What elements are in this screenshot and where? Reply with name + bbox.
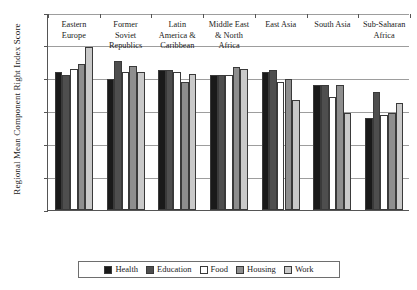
bar-food-eastern-europe [70, 69, 78, 210]
bar-work-east-asia [292, 100, 300, 210]
bar-health-south-asia [313, 85, 321, 210]
x-axis-category-label: FormerSovietRepublics [100, 20, 152, 52]
legend-label: Work [295, 265, 314, 274]
bar-work-eastern-europe [85, 47, 93, 210]
bar-work-south-asia [344, 113, 352, 210]
bar-housing-sub-saharan-africa [388, 113, 396, 210]
x-axis-category-label-line: America & [151, 31, 203, 42]
x-axis-category-label: Sub-SaharanAfrica [358, 20, 410, 41]
bar-education-middle-east-north-africa [218, 75, 226, 210]
bar-housing-former-soviet-republics [129, 66, 137, 210]
y-axis-tick-mark [44, 79, 48, 80]
x-axis-category-label: East Asia [255, 20, 307, 31]
bar-housing-south-asia [336, 85, 344, 210]
legend-item-education[interactable]: Education [146, 265, 191, 274]
x-axis-category-label-line: Middle East [203, 20, 255, 31]
x-axis-category-label: LatinAmerica &Caribbean [151, 20, 203, 52]
bar-housing-east-asia [285, 79, 293, 210]
x-axis-category-label-line: Caribbean [151, 41, 203, 52]
x-axis-category-label-line: Latin [151, 20, 203, 31]
plot-area: 020406080100120EasternEuropeFormerSoviet… [47, 14, 409, 211]
x-axis-category-label-line: Sub-Saharan [358, 20, 410, 31]
bar-food-former-soviet-republics [122, 72, 130, 210]
legend-label: Health [115, 265, 138, 274]
x-axis-tick-mark [100, 14, 101, 18]
x-axis-category-label: Middle East& NorthAfrica [203, 20, 255, 52]
x-axis-tick-mark [307, 14, 308, 18]
bar-health-sub-saharan-africa [365, 118, 373, 210]
x-axis-tick-mark [151, 14, 152, 18]
x-axis-category-label-line: Republics [100, 41, 152, 52]
legend-label: Education [157, 265, 191, 274]
x-axis-category-label-line: Soviet [100, 31, 152, 42]
legend-item-food[interactable]: Food [200, 265, 228, 274]
x-axis-category-label-line: Eastern [48, 20, 100, 31]
bar-education-east-asia [269, 70, 277, 210]
bar-health-eastern-europe [55, 72, 63, 210]
x-axis-tick-mark [255, 14, 256, 18]
legend-label: Housing [247, 265, 276, 274]
legend-swatch-work-icon [284, 266, 292, 274]
x-axis-category-label-line: Africa [358, 31, 410, 42]
bar-health-latin-america-caribbean [158, 70, 166, 210]
x-axis-tick-mark [358, 14, 359, 18]
bar-group [255, 14, 307, 210]
bar-housing-middle-east-north-africa [233, 67, 241, 210]
bar-food-latin-america-caribbean [173, 72, 181, 210]
chart-legend: HealthEducationFoodHousingWork [78, 261, 340, 278]
x-axis-category-label-line: Europe [48, 31, 100, 42]
bar-education-sub-saharan-africa [373, 92, 381, 210]
bar-housing-latin-america-caribbean [181, 82, 189, 210]
legend-swatch-education-icon [146, 266, 154, 274]
legend-swatch-food-icon [200, 266, 208, 274]
y-axis-tick-mark [44, 145, 48, 146]
x-axis-category-label: South Asia [307, 20, 359, 31]
bar-work-middle-east-north-africa [240, 69, 248, 210]
bar-health-middle-east-north-africa [210, 75, 218, 210]
y-axis-title: Regional Mean Component Right Index Scor… [12, 4, 22, 214]
legend-item-housing[interactable]: Housing [236, 265, 276, 274]
legend-swatch-housing-icon [236, 266, 244, 274]
y-axis-tick-mark [44, 46, 48, 47]
y-axis-tick-mark [44, 211, 48, 212]
bar-food-middle-east-north-africa [225, 75, 233, 210]
bar-housing-eastern-europe [78, 64, 86, 210]
x-axis-category-label-line: & North [203, 31, 255, 42]
x-axis-category-label: EasternEurope [48, 20, 100, 41]
x-axis-tick-mark [48, 14, 49, 18]
x-axis-category-label-line: South Asia [307, 20, 359, 31]
bar-food-south-asia [329, 97, 337, 210]
x-axis-category-label-line: Africa [203, 41, 255, 52]
bar-food-east-asia [277, 82, 285, 210]
bar-education-south-asia [321, 85, 329, 210]
legend-swatch-health-icon [104, 266, 112, 274]
legend-item-health[interactable]: Health [104, 265, 138, 274]
bar-health-east-asia [262, 72, 270, 210]
x-axis-category-label-line: Former [100, 20, 152, 31]
bar-food-sub-saharan-africa [380, 115, 388, 210]
y-axis-tick-mark [44, 112, 48, 113]
x-axis-tick-mark [203, 14, 204, 18]
bar-education-former-soviet-republics [114, 61, 122, 210]
bar-education-eastern-europe [62, 75, 70, 210]
x-axis-tick-mark [410, 14, 411, 18]
bar-work-sub-saharan-africa [396, 103, 404, 210]
bar-group [48, 14, 100, 210]
chart-figure: Regional Mean Component Right Index Scor… [0, 0, 417, 290]
bar-work-former-soviet-republics [137, 72, 145, 210]
y-axis-tick-mark [44, 178, 48, 179]
bar-group [358, 14, 410, 210]
bar-education-latin-america-caribbean [166, 70, 174, 210]
x-axis-category-label-line: East Asia [255, 20, 307, 31]
legend-label: Food [211, 265, 228, 274]
bar-group [307, 14, 359, 210]
legend-item-work[interactable]: Work [284, 265, 314, 274]
bar-health-former-soviet-republics [107, 79, 115, 210]
bar-work-latin-america-caribbean [189, 74, 197, 210]
